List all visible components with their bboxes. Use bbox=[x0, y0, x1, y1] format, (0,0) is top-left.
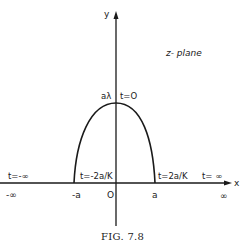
z-plane-diagram: y x z- plane aλ t=O t=-∞ t=-2a/K t=2a/K … bbox=[0, 0, 242, 247]
x-axis-label: x bbox=[234, 178, 240, 188]
x-axis-right-param: t= ∞ bbox=[202, 171, 222, 181]
tick-neg-infinity: -∞ bbox=[6, 190, 17, 200]
figure-caption: FIG. 7.8 bbox=[101, 231, 144, 242]
curve-top-label: aλ bbox=[101, 91, 111, 101]
tick-pos-infinity: ∞ bbox=[220, 191, 228, 201]
tick-neg-a: -a bbox=[72, 190, 81, 200]
tick-origin: O bbox=[107, 190, 114, 200]
x-axis-arrow-icon bbox=[224, 181, 232, 186]
y-axis-arrow-icon bbox=[114, 11, 119, 19]
curve-top-param: t=O bbox=[120, 91, 137, 101]
x-axis-left-param: t=-∞ bbox=[8, 171, 29, 181]
curve-left-foot-param: t=-2a/K bbox=[80, 171, 113, 181]
y-axis-label: y bbox=[104, 9, 110, 19]
curve-right-foot-param: t=2a/K bbox=[158, 171, 188, 181]
plane-label: z- plane bbox=[165, 48, 202, 58]
tick-pos-a: a bbox=[152, 190, 158, 200]
